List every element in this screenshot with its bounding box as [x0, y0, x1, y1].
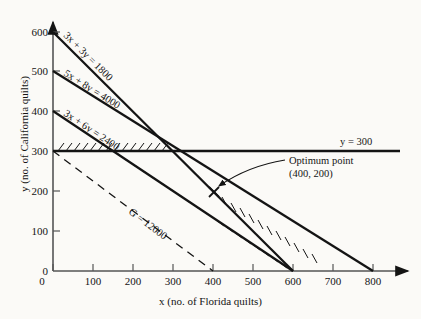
optimum-point-title: Optimum point — [289, 154, 353, 167]
label-y300: y = 300 — [340, 136, 372, 147]
y-axis-title: y (no. of California quilts) — [18, 34, 30, 234]
y-tick-label: 400 — [32, 105, 49, 117]
y-tick-labels: 0 100 200 300 400 500 600 — [32, 26, 49, 277]
hatch-3x6y2400 — [118, 154, 287, 268]
x-tick-label: 200 — [125, 275, 142, 287]
x-tick-label: 800 — [365, 275, 382, 287]
y-tick-label: 300 — [32, 145, 49, 157]
x-axis-title: x (no. of Florida quilts) — [0, 295, 421, 307]
x-tick-label: 100 — [85, 275, 102, 287]
y-tick-label: 0 — [43, 265, 49, 277]
linear-programming-chart: 0 100 200 300 400 500 600 700 800 0 100 … — [0, 0, 421, 319]
optimum-point-annotation: Optimum point (400, 200) — [289, 154, 353, 180]
y-tick-label: 600 — [32, 26, 49, 38]
x-tick-label: 400 — [205, 275, 222, 287]
y-tick-label: 100 — [32, 225, 49, 237]
label-3x6y2400: 3x + 6y = 2400 — [62, 108, 122, 153]
x-tick-label: 500 — [245, 275, 262, 287]
x-tick-label: 300 — [165, 275, 182, 287]
x-tick-labels: 0 100 200 300 400 500 600 700 800 — [39, 275, 382, 287]
label-g12000: G = 12000 — [127, 206, 170, 242]
optimum-point-marker — [209, 187, 219, 197]
y-tick-marks — [53, 32, 60, 231]
x-tick-label: 700 — [325, 275, 342, 287]
y-tick-label: 500 — [32, 65, 49, 77]
optimum-point-coords: (400, 200) — [289, 167, 353, 180]
x-tick-label: 600 — [285, 275, 302, 287]
x-tick-marks — [53, 264, 373, 271]
y-tick-label: 200 — [32, 185, 49, 197]
